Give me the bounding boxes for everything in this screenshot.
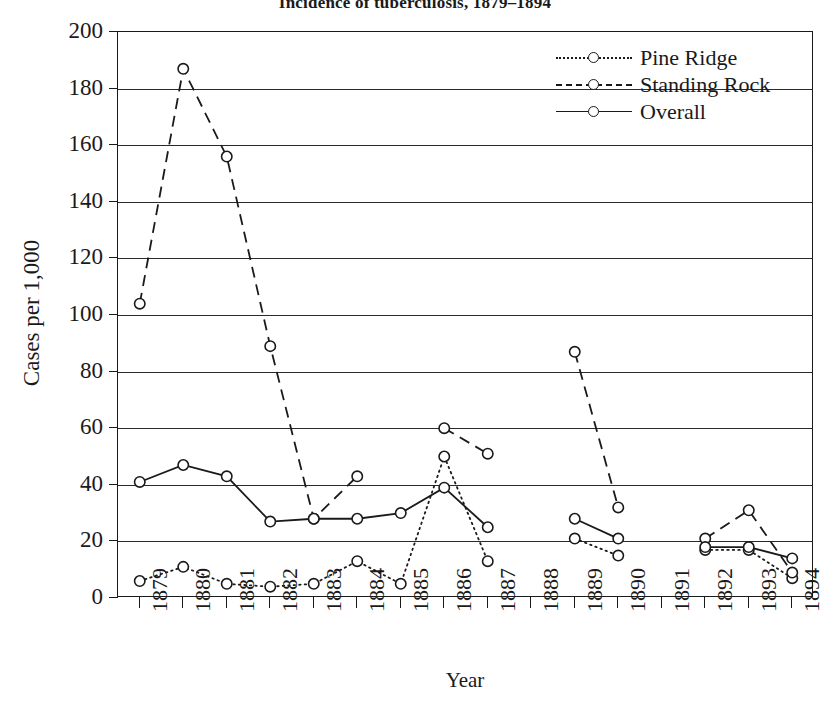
- y-axis-tick-label: 140: [13, 189, 103, 212]
- x-axis-tick-label: 1884: [366, 568, 388, 612]
- x-axis-tick-label: 1890: [627, 568, 649, 612]
- x-axis-tick-label: 1891: [671, 568, 693, 612]
- y-axis-tick-label: 60: [13, 415, 103, 438]
- y-axis-tick-label: 160: [13, 132, 103, 155]
- data-point-marker: [483, 448, 493, 458]
- x-axis-tick-label: 1888: [540, 568, 562, 612]
- legend-item-overall[interactable]: Overall: [556, 98, 806, 125]
- data-point-marker: [309, 579, 319, 589]
- x-axis-tick-mark: [704, 597, 705, 608]
- legend-circle-marker-icon: [588, 79, 599, 90]
- data-point-marker: [744, 505, 754, 515]
- data-point-marker: [352, 556, 362, 566]
- data-point-marker: [178, 460, 188, 470]
- x-axis-tick-mark: [574, 597, 575, 608]
- legend-item-standing-rock[interactable]: Standing Rock: [556, 71, 806, 98]
- x-axis-tick-mark: [443, 597, 444, 608]
- x-axis-tick-label: 1893: [758, 568, 780, 612]
- data-point-marker: [787, 553, 797, 563]
- gridline: [118, 428, 812, 429]
- gridline: [118, 145, 812, 146]
- y-axis-tick-label: 0: [13, 585, 103, 608]
- y-axis-tick-label: 100: [13, 302, 103, 325]
- data-point-marker: [787, 573, 797, 583]
- y-axis-tick-label: 20: [13, 528, 103, 551]
- data-point-marker: [613, 550, 623, 560]
- series-line: [140, 69, 358, 519]
- gridline: [118, 315, 812, 316]
- data-point-marker: [613, 502, 623, 512]
- y-axis-tick-label: 40: [13, 472, 103, 495]
- data-point-marker: [135, 576, 145, 586]
- x-axis-tick-label: 1894: [801, 568, 823, 612]
- y-axis-tick-label: 200: [13, 19, 103, 42]
- data-point-marker: [309, 514, 319, 524]
- data-point-marker: [265, 341, 275, 351]
- x-axis-tick-mark: [269, 597, 270, 608]
- tuberculosis-incidence-chart: Incidence of tuberculosis, 1879–1894 Cas…: [0, 0, 830, 710]
- data-point-marker: [787, 567, 797, 577]
- y-axis-tick-mark: [109, 597, 118, 598]
- legend-label: Overall: [632, 99, 706, 125]
- gridline: [118, 485, 812, 486]
- y-axis-tick-label: 120: [13, 245, 103, 268]
- data-point-marker: [178, 64, 188, 74]
- x-axis-tick-mark: [661, 597, 662, 608]
- data-point-marker: [439, 451, 449, 461]
- gridline: [118, 202, 812, 203]
- data-point-marker: [483, 556, 493, 566]
- series-line: [705, 547, 792, 558]
- x-axis-tick-mark: [313, 597, 314, 608]
- legend-line-sample-icon: [556, 75, 632, 95]
- data-point-marker: [700, 542, 710, 552]
- x-axis-tick-label: 1889: [584, 568, 606, 612]
- x-axis-tick-mark: [400, 597, 401, 608]
- x-axis-tick-mark: [139, 597, 140, 608]
- data-point-marker: [309, 514, 319, 524]
- x-axis-tick-label: 1887: [497, 568, 519, 612]
- data-point-marker: [744, 542, 754, 552]
- legend-label: Pine Ridge: [632, 45, 737, 71]
- legend-line-sample-icon: [556, 102, 632, 122]
- series-line: [140, 465, 488, 527]
- series-line: [575, 519, 619, 539]
- gridline: [118, 541, 812, 542]
- series-standing-rock: [135, 64, 798, 578]
- data-point-marker: [483, 522, 493, 532]
- legend-circle-marker-icon: [588, 52, 599, 63]
- chart-legend: Pine RidgeStanding RockOverall: [556, 44, 806, 125]
- legend-line-sample-icon: [556, 48, 632, 68]
- data-point-marker: [265, 516, 275, 526]
- x-axis-tick-mark: [791, 597, 792, 608]
- data-point-marker: [570, 347, 580, 357]
- y-axis-tick-label: 80: [13, 359, 103, 382]
- legend-label: Standing Rock: [632, 72, 770, 98]
- legend-circle-marker-icon: [588, 106, 599, 117]
- data-point-marker: [178, 562, 188, 572]
- data-point-marker: [352, 514, 362, 524]
- legend-item-pine-ridge[interactable]: Pine Ridge: [556, 44, 806, 71]
- data-point-marker: [700, 545, 710, 555]
- data-point-marker: [265, 581, 275, 591]
- x-axis-tick-mark: [748, 597, 749, 608]
- data-point-marker: [396, 508, 406, 518]
- y-axis-tick-label: 180: [13, 76, 103, 99]
- x-axis-tick-mark: [182, 597, 183, 608]
- data-point-marker: [222, 151, 232, 161]
- x-axis-tick-mark: [487, 597, 488, 608]
- data-point-marker: [744, 545, 754, 555]
- x-axis-tick-label: 1882: [279, 568, 301, 612]
- x-axis-tick-label: 1883: [323, 568, 345, 612]
- series-overall: [135, 460, 798, 564]
- gridline: [118, 258, 812, 259]
- x-axis-tick-label: 1892: [714, 568, 736, 612]
- data-point-marker: [352, 471, 362, 481]
- x-axis-tick-label: 1885: [410, 568, 432, 612]
- data-point-marker: [570, 514, 580, 524]
- x-axis-tick-mark: [226, 597, 227, 608]
- data-point-marker: [135, 298, 145, 308]
- series-line: [444, 428, 488, 453]
- x-axis-tick-mark: [356, 597, 357, 608]
- data-point-marker: [222, 471, 232, 481]
- x-axis-tick-mark: [617, 597, 618, 608]
